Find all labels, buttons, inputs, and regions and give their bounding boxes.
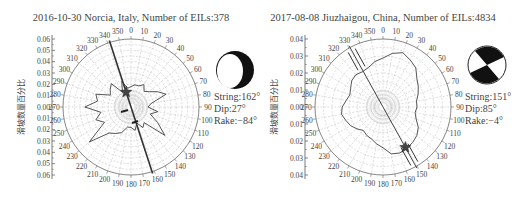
angle-label: 140 bbox=[175, 162, 187, 171]
angle-label: 100 bbox=[453, 116, 465, 125]
y-tick-label: 0.05 bbox=[37, 46, 50, 55]
angle-tick bbox=[64, 83, 67, 84]
radial-gridline bbox=[319, 84, 375, 104]
angle-label: 210 bbox=[87, 170, 99, 179]
radial-minor bbox=[382, 90, 383, 103]
y-tick-label: 0.06 bbox=[37, 171, 50, 180]
focal-mechanism-label: Dip:85° bbox=[465, 103, 497, 114]
angle-label: 300 bbox=[59, 65, 71, 74]
angle-label: 110 bbox=[198, 129, 209, 138]
angle-label: 160 bbox=[152, 175, 164, 184]
angle-tick bbox=[316, 83, 319, 84]
angle-label: 190 bbox=[112, 179, 124, 188]
radial-gridline bbox=[388, 55, 426, 101]
y-tick-label: 0.00 bbox=[290, 103, 303, 112]
angle-label: 0 bbox=[129, 26, 133, 35]
y-tick-label: 0.03 bbox=[290, 154, 303, 163]
angle-label: 150 bbox=[164, 170, 176, 179]
angle-label: 260 bbox=[50, 116, 62, 125]
angle-tick bbox=[107, 171, 108, 174]
angle-label: 160 bbox=[404, 175, 416, 184]
angle-tick bbox=[96, 46, 98, 49]
angle-label: 230 bbox=[318, 152, 330, 161]
angle-tick bbox=[61, 95, 64, 96]
angle-tick bbox=[154, 40, 155, 43]
rose-outline bbox=[342, 53, 419, 154]
angle-label: 10 bbox=[141, 27, 149, 36]
angle-label: 210 bbox=[339, 170, 351, 179]
angle-label: 180 bbox=[377, 180, 389, 189]
angle-tick bbox=[359, 171, 360, 174]
angle-tick bbox=[359, 40, 360, 43]
angle-tick bbox=[395, 37, 396, 40]
y-tick-label: 0.01 bbox=[37, 91, 50, 100]
angle-label: 240 bbox=[311, 142, 323, 151]
jiuzhaigou-panel: 2017-08-08 Jiuzhaigou, China, Number of … bbox=[269, 12, 511, 189]
radial-gridline bbox=[72, 111, 124, 141]
chart-title: 2017-08-08 Jiuzhaigou, China, Number of … bbox=[270, 12, 496, 23]
angle-tick bbox=[395, 174, 396, 177]
angle-tick bbox=[313, 95, 316, 96]
radial-minor bbox=[383, 90, 384, 103]
angle-label: 130 bbox=[184, 152, 196, 161]
angle-label: 250 bbox=[305, 129, 317, 138]
radial-minor bbox=[130, 111, 131, 124]
y-tick-label: 0.04 bbox=[37, 57, 50, 66]
angle-tick bbox=[348, 166, 350, 169]
fault-line bbox=[109, 40, 152, 173]
beachball-white bbox=[217, 54, 243, 88]
radial-gridline bbox=[135, 114, 165, 166]
angle-label: 230 bbox=[66, 152, 78, 161]
angle-label: 330 bbox=[87, 36, 99, 45]
radial-minor bbox=[366, 107, 379, 108]
radial-minor bbox=[387, 107, 400, 108]
angle-tick bbox=[417, 46, 419, 49]
angle-label: 290 bbox=[305, 77, 317, 86]
rose-diagrams: 2016-10-30 Norcia, Italy, Number of EILs… bbox=[0, 0, 525, 197]
angle-label: 50 bbox=[186, 54, 194, 63]
radial-minor bbox=[114, 107, 127, 108]
angle-tick bbox=[371, 37, 372, 40]
radial-gridline bbox=[391, 108, 450, 118]
angle-label: 350 bbox=[112, 27, 124, 36]
angle-label: 280 bbox=[50, 90, 62, 99]
radial-gridline bbox=[136, 55, 174, 101]
y-tick-label: 0.05 bbox=[37, 159, 50, 168]
angle-tick bbox=[119, 37, 120, 40]
radial-gridline bbox=[108, 115, 128, 171]
radial-gridline bbox=[137, 63, 183, 101]
angle-tick bbox=[107, 40, 108, 43]
angle-tick bbox=[406, 171, 407, 174]
radial-minor bbox=[382, 111, 383, 124]
angle-label: 0 bbox=[381, 26, 385, 35]
angle-tick bbox=[61, 119, 64, 120]
y-tick-label: 0.02 bbox=[37, 80, 50, 89]
angle-tick bbox=[435, 61, 437, 63]
radial-gridline bbox=[319, 110, 375, 130]
angle-tick bbox=[406, 40, 407, 43]
angle-tick bbox=[442, 72, 445, 74]
y-axis-label: 滑坡数量百分比 bbox=[269, 79, 279, 135]
y-tick-label: 0.06 bbox=[37, 35, 50, 44]
focal-mechanism-label: Rake:−84° bbox=[214, 115, 257, 126]
y-tick-label: 0.04 bbox=[290, 171, 303, 180]
chart-title: 2016-10-30 Norcia, Italy, Number of EILs… bbox=[33, 12, 230, 23]
radial-minor bbox=[114, 106, 127, 107]
angle-label: 340 bbox=[99, 31, 111, 40]
y-tick-label: 0.02 bbox=[37, 125, 50, 134]
radial-gridline bbox=[119, 115, 129, 174]
y-tick-label: 0.01 bbox=[290, 86, 303, 95]
angle-tick bbox=[143, 174, 144, 177]
angle-label: 330 bbox=[339, 36, 351, 45]
radial-gridline bbox=[391, 110, 447, 130]
radial-gridline bbox=[371, 40, 381, 99]
focal-mechanism-label: Dip:27° bbox=[214, 103, 246, 114]
angle-tick bbox=[143, 37, 144, 40]
y-tick-label: 0.01 bbox=[37, 114, 50, 123]
radial-gridline bbox=[339, 55, 377, 101]
y-tick-label: 0.04 bbox=[290, 35, 303, 44]
radial-minor bbox=[366, 106, 379, 107]
y-tick-label: 0.03 bbox=[37, 69, 50, 78]
focal-mechanism-label: String:151° bbox=[465, 91, 511, 102]
angle-label: 80 bbox=[455, 90, 463, 99]
